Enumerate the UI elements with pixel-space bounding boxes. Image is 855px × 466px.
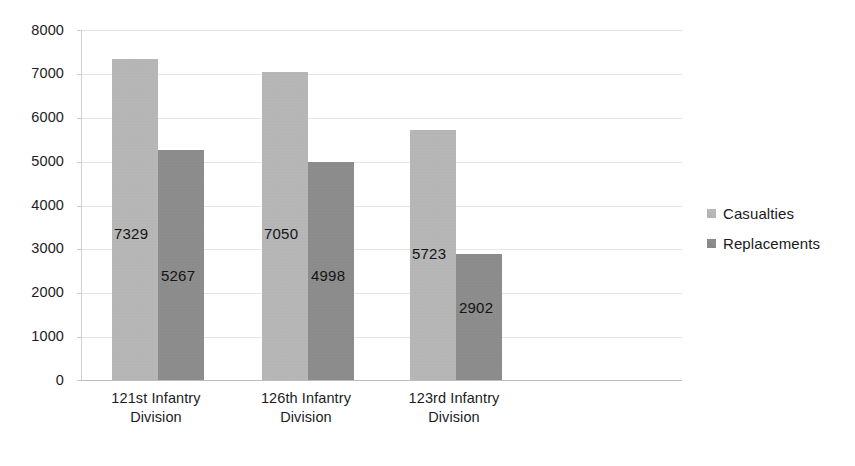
category-label-126th: 126th Infantry Division: [231, 389, 381, 427]
legend-swatch-icon-replacements: [707, 239, 716, 248]
y-tick-mark: [77, 118, 82, 119]
y-tick-label: 8000: [0, 23, 64, 38]
y-tick-mark: [77, 206, 82, 207]
bar-chart: 8000 7000 6000 5000 4000 3000 2000 1000 …: [0, 0, 855, 466]
legend-label-casualties: Casualties: [723, 206, 794, 221]
y-tick-mark: [77, 337, 82, 338]
category-label-line1: 121st Infantry: [81, 389, 231, 408]
y-tick-label: 6000: [0, 110, 64, 125]
bar-replacements-121st[interactable]: [158, 150, 204, 381]
legend-item-replacements[interactable]: Replacements: [707, 228, 820, 258]
category-label-line1: 126th Infantry: [231, 389, 381, 408]
y-tick-mark: [77, 249, 82, 250]
y-tick-label: 0: [0, 373, 64, 388]
legend-label-replacements: Replacements: [723, 236, 820, 251]
y-tick-label: 1000: [0, 329, 64, 344]
category-label-123rd: 123rd Infantry Division: [379, 389, 529, 427]
bar-casualties-121st[interactable]: [112, 59, 158, 381]
category-label-line1: 123rd Infantry: [379, 389, 529, 408]
y-tick-mark: [77, 293, 82, 294]
y-tick-label: 4000: [0, 198, 64, 213]
legend-swatch-icon-casualties: [707, 209, 716, 218]
y-tick-mark: [77, 30, 82, 31]
category-label-line2: Division: [231, 408, 381, 427]
y-tick-label: 5000: [0, 154, 64, 169]
y-tick-label: 3000: [0, 241, 64, 256]
category-label-line2: Division: [379, 408, 529, 427]
y-tick-mark: [77, 162, 82, 163]
gridline-6000: [81, 118, 682, 119]
gridline-8000: [81, 30, 682, 31]
gridline-7000: [81, 74, 682, 75]
category-label-121st: 121st Infantry Division: [81, 389, 231, 427]
data-label-casualties-126th: 7050: [264, 226, 298, 241]
category-label-line2: Division: [81, 408, 231, 427]
legend-item-casualties[interactable]: Casualties: [707, 198, 820, 228]
data-label-replacements-123rd: 2902: [459, 300, 493, 315]
y-tick-label: 2000: [0, 285, 64, 300]
data-label-casualties-123rd: 5723: [412, 246, 446, 261]
y-tick-label: 7000: [0, 66, 64, 81]
data-label-casualties-121st: 7329: [114, 226, 148, 241]
legend: Casualties Replacements: [707, 198, 820, 258]
plot-area: 7329 5267 7050 4998 5723 2902: [81, 30, 682, 381]
data-label-replacements-126th: 4998: [311, 268, 345, 283]
bar-replacements-123rd[interactable]: [456, 254, 502, 381]
x-axis-line: [81, 380, 682, 381]
data-label-replacements-121st: 5267: [161, 268, 195, 283]
y-tick-mark: [77, 74, 82, 75]
